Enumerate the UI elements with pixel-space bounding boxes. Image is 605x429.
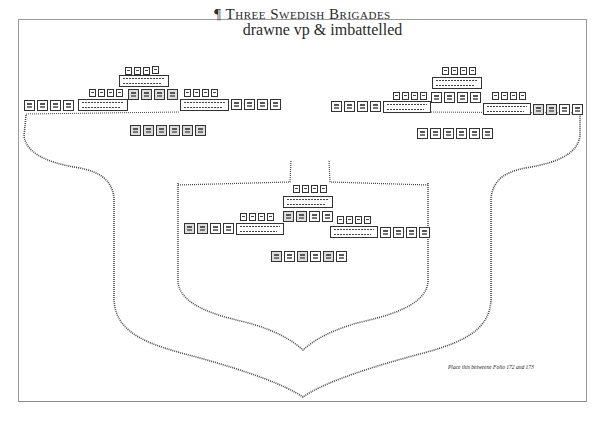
- colour-marker: [193, 89, 200, 97]
- colour-marker: [492, 92, 499, 100]
- pike-block: [483, 103, 531, 115]
- musket-unit: [244, 99, 255, 110]
- colour-marker: [311, 185, 318, 193]
- musket-unit: [357, 101, 368, 112]
- colour-marker: [98, 89, 105, 97]
- reserve-unit: [443, 128, 454, 139]
- folio-placement-caption: Place this betweene Folio 172 and 173: [448, 364, 534, 370]
- colour-marker: [411, 92, 418, 100]
- colour-marker: [519, 92, 526, 100]
- reserve-unit: [297, 251, 308, 262]
- colour-marker: [469, 67, 476, 75]
- musket-unit: [283, 211, 294, 222]
- pike-block: [383, 101, 431, 113]
- reserve-unit: [323, 251, 334, 262]
- colour-marker: [116, 89, 123, 97]
- colour-marker: [143, 67, 150, 75]
- musket-unit: [270, 99, 281, 110]
- reserve-unit: [456, 128, 467, 139]
- colour-marker: [320, 185, 327, 193]
- colour-marker: [346, 216, 353, 224]
- inner-top-edge-right: [329, 160, 428, 185]
- colour-marker: [501, 92, 508, 100]
- musket-unit: [370, 101, 381, 112]
- colour-marker: [510, 92, 517, 100]
- musket-unit: [24, 100, 35, 111]
- musket-unit: [309, 211, 320, 222]
- musket-unit: [167, 89, 178, 100]
- musket-unit: [559, 104, 570, 115]
- musket-unit: [393, 227, 404, 238]
- reserve-unit: [469, 128, 480, 139]
- musket-unit: [457, 92, 468, 103]
- colour-marker: [267, 213, 274, 221]
- musket-unit: [141, 89, 152, 100]
- musket-unit: [431, 92, 442, 103]
- pike-block: [330, 226, 378, 238]
- colour-marker: [258, 213, 265, 221]
- musket-unit: [184, 223, 195, 234]
- colour-marker: [442, 67, 449, 75]
- musket-unit: [546, 104, 557, 115]
- colour-marker: [202, 89, 209, 97]
- colour-marker: [460, 67, 467, 75]
- reserve-unit: [130, 125, 141, 136]
- pike-block: [119, 75, 169, 87]
- musket-unit: [470, 92, 481, 103]
- pike-block: [432, 77, 482, 89]
- colour-marker: [240, 213, 247, 221]
- colour-marker: [302, 185, 309, 193]
- colour-marker: [420, 92, 427, 100]
- colour-marker: [364, 216, 371, 224]
- musket-unit: [331, 101, 342, 112]
- musket-unit: [406, 227, 417, 238]
- musket-unit: [231, 99, 242, 110]
- reserve-unit: [143, 125, 154, 136]
- musket-unit: [210, 223, 221, 234]
- reserve-unit: [271, 251, 282, 262]
- musket-unit: [37, 100, 48, 111]
- musket-unit: [380, 227, 391, 238]
- reserve-unit: [417, 128, 428, 139]
- pike-block: [180, 99, 229, 111]
- colour-marker: [402, 92, 409, 100]
- musket-unit: [419, 227, 430, 238]
- pike-block: [283, 196, 333, 208]
- reserve-unit: [482, 128, 493, 139]
- musket-unit: [533, 104, 544, 115]
- reserve-unit: [195, 125, 206, 136]
- colour-marker: [393, 92, 400, 100]
- colour-marker: [134, 67, 141, 75]
- musket-unit: [50, 100, 61, 111]
- reserve-unit: [284, 251, 295, 262]
- musket-unit: [444, 92, 455, 103]
- colour-marker: [107, 89, 114, 97]
- reserve-unit: [336, 251, 347, 262]
- colour-marker: [152, 66, 159, 74]
- musket-unit: [344, 101, 355, 112]
- pike-block: [236, 223, 284, 235]
- colour-marker: [451, 67, 458, 75]
- musket-unit: [154, 89, 165, 100]
- musket-unit: [63, 100, 74, 111]
- musket-unit: [296, 211, 307, 222]
- reserve-unit: [430, 128, 441, 139]
- left-brigade-base-line: [26, 112, 180, 114]
- colour-marker: [249, 213, 256, 221]
- colour-marker: [125, 67, 132, 75]
- musket-unit: [257, 99, 268, 110]
- musket-unit: [223, 223, 234, 234]
- inner-top-edge-left: [178, 160, 291, 185]
- colour-marker: [355, 216, 362, 224]
- colour-marker: [211, 89, 218, 97]
- musket-unit: [197, 223, 208, 234]
- colour-marker: [337, 216, 344, 224]
- colour-marker: [293, 185, 300, 193]
- reserve-unit: [156, 125, 167, 136]
- colour-marker: [89, 89, 96, 97]
- musket-unit: [572, 104, 583, 115]
- reserve-unit: [182, 125, 193, 136]
- inner-shield-outline: [178, 183, 428, 350]
- colour-marker: [184, 89, 191, 97]
- pike-block: [78, 99, 128, 111]
